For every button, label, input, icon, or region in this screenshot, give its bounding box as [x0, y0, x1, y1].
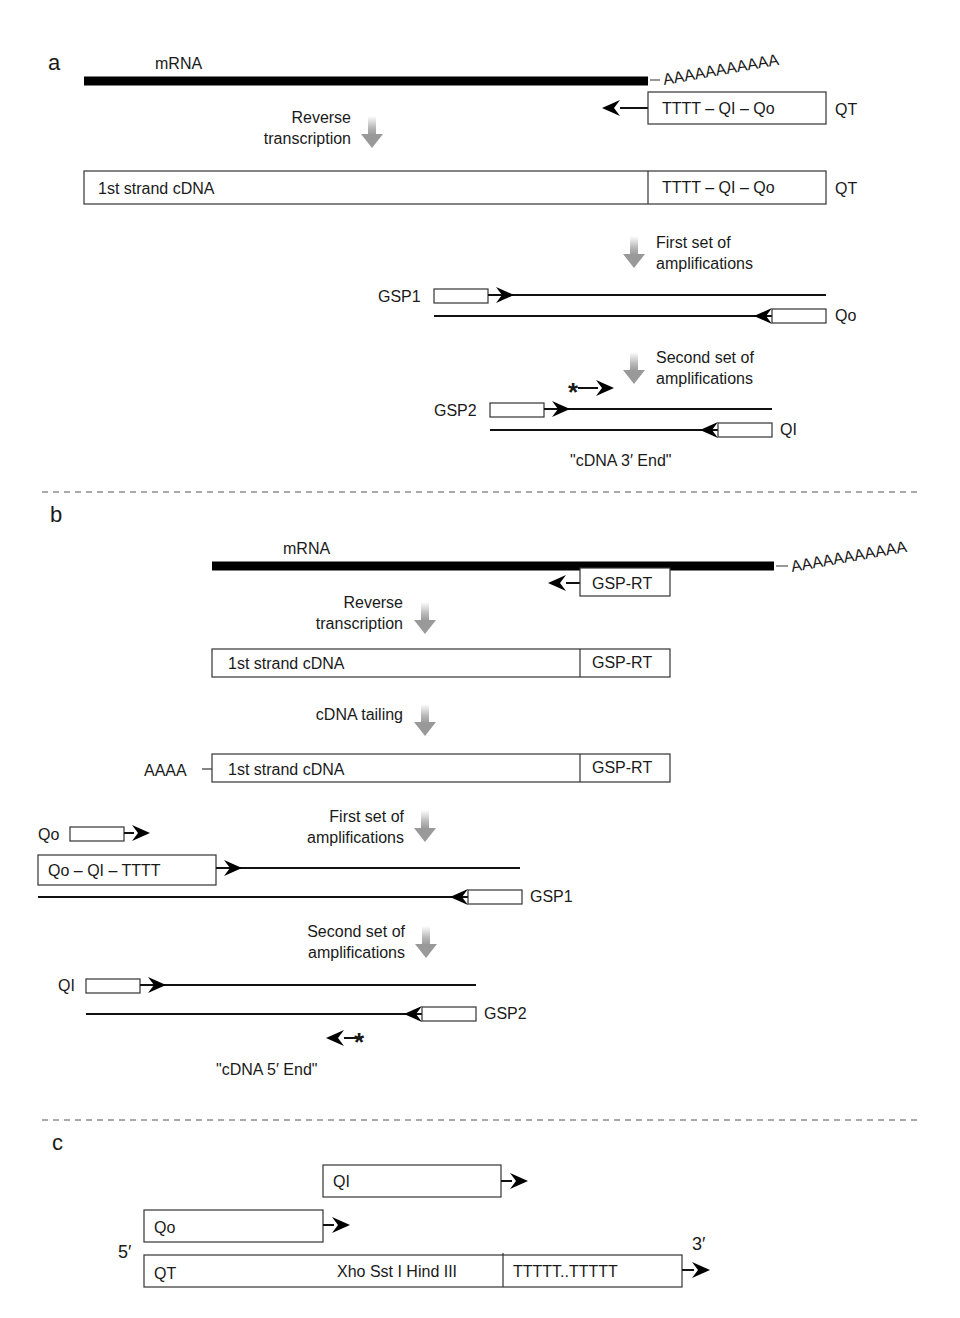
arrow-right-icon [692, 1262, 710, 1278]
tailed-gsp-rt-text: GSP-RT [592, 759, 652, 776]
cdna-qt-label: QT [835, 180, 857, 197]
step-down-arrow-icon [361, 116, 383, 148]
step-first-amp-line2: amplifications [307, 829, 404, 846]
step-first-amp-line2: amplifications [656, 255, 753, 272]
step-second-amp-line1: Second set of [656, 349, 754, 366]
arrow-right-icon [332, 1217, 350, 1233]
polya-tail: AAAAAAAAAAA [790, 538, 909, 575]
star-label: * [354, 1027, 365, 1057]
arrow-left-icon [548, 575, 566, 591]
cdna-label: 1st strand cDNA [228, 655, 345, 672]
panel-c: c QI Qo 5′ 3′ QT Xho Sst I Hind III TTTT… [52, 1130, 710, 1287]
step-reverse-transcription-line1: Reverse [291, 109, 351, 126]
panel-b: b mRNA AAAAAAAAAAA GSP-RT Reverse transc… [38, 502, 908, 1078]
qt-anchor-text: Qo – QI – TTTT [48, 862, 161, 879]
cdna-label: 1st strand cDNA [98, 180, 215, 197]
star-label: * [568, 377, 579, 407]
tailed-cdna-label: 1st strand cDNA [228, 761, 345, 778]
arrow-right-icon [132, 825, 150, 841]
gsp2-primer-box [490, 403, 544, 417]
arrow-right-icon [596, 380, 614, 396]
qt-label: QT [835, 101, 857, 118]
cdna-gsp-rt-text: GSP-RT [592, 654, 652, 671]
qi-primer-box [86, 979, 140, 993]
step-down-arrow-icon [623, 352, 645, 384]
arrow-left-icon [326, 1030, 344, 1046]
result-5-end-label: "cDNA 5′ End" [216, 1061, 318, 1078]
step-down-arrow-icon [415, 926, 437, 958]
step-reverse-transcription-line1: Reverse [343, 594, 403, 611]
cdna-tail-text: TTTT – QI – Qo [662, 179, 775, 196]
step-reverse-transcription-line2: transcription [316, 615, 403, 632]
mrna-label: mRNA [283, 540, 330, 557]
panel-label-b: b [50, 502, 62, 527]
panel-label-c: c [52, 1130, 63, 1155]
qi-label: QI [780, 421, 797, 438]
step-second-amp-line2: amplifications [308, 944, 405, 961]
step-reverse-transcription-line2: transcription [264, 130, 351, 147]
step-down-arrow-icon [414, 602, 436, 634]
step-second-amp-line1: Second set of [307, 923, 405, 940]
three-prime-label: 3′ [692, 1234, 706, 1254]
polyt-text: TTTTT..TTTTT [513, 1263, 618, 1280]
step-down-arrow-icon [623, 236, 645, 268]
mrna-label: mRNA [155, 55, 202, 72]
qo-label: Qo [38, 826, 59, 843]
gsp1-label: GSP1 [530, 888, 573, 905]
qo-label: Qo [835, 307, 856, 324]
gsp2-primer-box [422, 1007, 476, 1021]
result-3-end-label: "cDNA 3′ End" [570, 452, 672, 469]
step-second-amp-line2: amplifications [656, 370, 753, 387]
arrow-right-icon [510, 1173, 528, 1189]
qt-construct-label: QT [154, 1265, 176, 1282]
panel-a: a mRNA AAAAAAAAAAA TTTT – QI – Qo QT Rev… [48, 50, 857, 469]
gsp2-label: GSP2 [434, 402, 477, 419]
gsp2-label: GSP2 [484, 1005, 527, 1022]
step-first-amp-line1: First set of [656, 234, 731, 251]
gsp1-primer-box [434, 289, 488, 303]
step-cdna-tailing: cDNA tailing [316, 706, 403, 723]
panel-label-a: a [48, 50, 61, 75]
gsp-rt-text: GSP-RT [592, 575, 652, 592]
qo-primer-box [772, 309, 826, 323]
gsp1-primer-box [468, 890, 522, 904]
race-diagram: a mRNA AAAAAAAAAAA TTTT – QI – Qo QT Rev… [0, 0, 960, 1318]
arrow-left-icon [602, 100, 620, 116]
tail-prefix: AAAA [144, 762, 187, 779]
qi-primer-box [718, 423, 772, 437]
qt-primer-text: TTTT – QI – Qo [662, 100, 775, 117]
polya-tail: AAAAAAAAAAA [662, 51, 781, 88]
step-down-arrow-icon [414, 810, 436, 842]
gsp1-label: GSP1 [378, 288, 421, 305]
restriction-sites: Xho Sst I Hind III [337, 1263, 457, 1280]
step-first-amp-line1: First set of [329, 808, 404, 825]
qi-segment-text: QI [333, 1173, 350, 1190]
five-prime-label: 5′ [118, 1242, 132, 1262]
step-down-arrow-icon [414, 704, 436, 736]
qo-primer-box [70, 827, 124, 841]
qo-segment-text: Qo [154, 1219, 175, 1236]
qi-label: QI [58, 977, 75, 994]
